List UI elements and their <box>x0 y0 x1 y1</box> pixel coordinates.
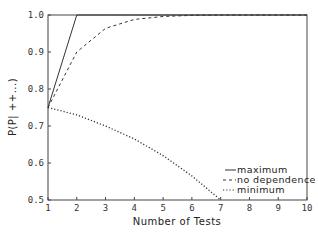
y-tick-label: 0.9 <box>28 47 44 57</box>
y-tick-label: 0.8 <box>28 84 44 94</box>
x-tick-label: 4 <box>132 203 137 213</box>
x-axis-label: Number of Tests <box>133 216 222 227</box>
x-tick-label: 9 <box>276 203 281 213</box>
x-tick-label: 8 <box>247 203 252 213</box>
series-no-dependence <box>48 15 307 108</box>
probability-chart: 123456789100.50.60.70.80.91.0 maximum no… <box>0 0 318 235</box>
y-tick-label: 0.7 <box>28 121 44 131</box>
series-maximum <box>48 15 307 108</box>
y-tick-label: 0.5 <box>28 195 44 205</box>
x-tick-label: 6 <box>189 203 194 213</box>
y-tick-label: 1.0 <box>28 10 44 20</box>
x-tick-label: 1 <box>45 203 50 213</box>
x-tick-label: 5 <box>160 203 165 213</box>
x-tick-label: 2 <box>74 203 79 213</box>
x-tick-label: 3 <box>103 203 108 213</box>
x-tick-label: 10 <box>302 203 313 213</box>
x-tick-label: 7 <box>218 203 223 213</box>
legend: maximum no dependence minimum <box>223 164 316 195</box>
y-tick-label: 0.6 <box>28 158 44 168</box>
y-axis-label: P(P| ++...) <box>7 78 19 136</box>
series-minimum <box>48 108 221 201</box>
legend-label-minimum: minimum <box>237 184 285 195</box>
